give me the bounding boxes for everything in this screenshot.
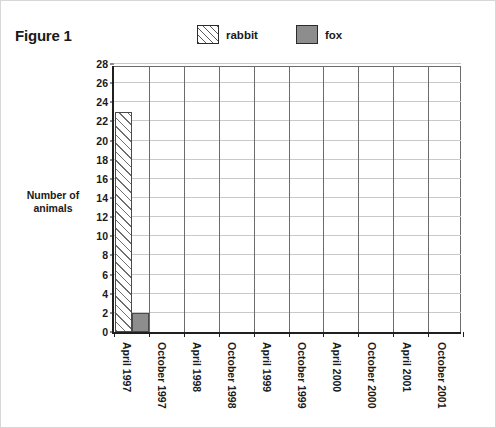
y-tick-label: 28 bbox=[96, 58, 108, 70]
legend-item-fox: fox bbox=[296, 25, 342, 44]
x-tick-mark bbox=[114, 332, 115, 337]
x-tick-mark bbox=[463, 332, 464, 337]
gridline-horizontal bbox=[114, 63, 461, 64]
x-tick-mark bbox=[254, 332, 255, 337]
y-axis-title-line-1: Number of bbox=[11, 189, 95, 202]
x-tick-label: April 1999 bbox=[261, 342, 273, 392]
x-tick-label: October 1997 bbox=[156, 342, 168, 409]
y-tick-mark bbox=[110, 83, 114, 84]
y-tick-mark bbox=[110, 312, 114, 313]
x-tick-mark bbox=[323, 332, 324, 337]
x-tick-label: October 1998 bbox=[226, 342, 238, 409]
x-tick-label: October 1999 bbox=[296, 342, 308, 409]
x-axis-labels: April 1997October 1997April 1998October … bbox=[112, 342, 461, 422]
y-axis-title-line-2: animals bbox=[11, 202, 95, 215]
y-tick-label: 10 bbox=[96, 230, 108, 242]
y-tick-mark bbox=[110, 236, 114, 237]
x-tick-label: April 2001 bbox=[401, 342, 413, 392]
bar-group bbox=[114, 66, 461, 332]
legend-label-fox: fox bbox=[325, 29, 342, 41]
y-tick-label: 22 bbox=[96, 115, 108, 127]
x-tick-label: April 1998 bbox=[191, 342, 203, 392]
y-tick-mark bbox=[110, 64, 114, 65]
legend-label-rabbit: rabbit bbox=[226, 29, 258, 41]
legend-swatch-fox-icon bbox=[296, 25, 318, 44]
x-tick-mark bbox=[184, 332, 185, 337]
y-axis-title: Number of animals bbox=[11, 189, 95, 215]
y-tick-label: 16 bbox=[96, 173, 108, 185]
chart-legend: rabbit fox bbox=[197, 25, 342, 44]
y-tick-label: 26 bbox=[96, 77, 108, 89]
y-tick-mark bbox=[110, 293, 114, 294]
x-tick-mark bbox=[289, 332, 290, 337]
y-tick-mark bbox=[110, 274, 114, 275]
bar-rabbit-0 bbox=[115, 112, 132, 332]
y-tick-label: 0 bbox=[102, 326, 108, 338]
y-tick-mark bbox=[110, 121, 114, 122]
y-tick-label: 14 bbox=[96, 192, 108, 204]
y-tick-mark bbox=[110, 140, 114, 141]
x-tick-mark bbox=[149, 332, 150, 337]
y-tick-mark bbox=[110, 178, 114, 179]
x-tick-mark bbox=[428, 332, 429, 337]
y-tick-label: 8 bbox=[102, 249, 108, 261]
y-tick-mark bbox=[110, 198, 114, 199]
x-tick-mark bbox=[358, 332, 359, 337]
y-tick-mark bbox=[110, 102, 114, 103]
y-tick-label: 24 bbox=[96, 96, 108, 108]
legend-item-rabbit: rabbit bbox=[197, 25, 258, 44]
x-tick-mark bbox=[219, 332, 220, 337]
y-tick-mark bbox=[110, 159, 114, 160]
x-tick-label: October 2000 bbox=[366, 342, 378, 409]
y-tick-mark bbox=[110, 217, 114, 218]
y-tick-label: 6 bbox=[102, 269, 108, 281]
y-tick-label: 2 bbox=[102, 307, 108, 319]
x-tick-label: October 2001 bbox=[436, 342, 448, 409]
y-tick-label: 18 bbox=[96, 154, 108, 166]
bar-fox-0 bbox=[132, 313, 149, 332]
plot-area: 0246810121416182022242628 bbox=[112, 66, 461, 334]
x-tick-label: April 2000 bbox=[331, 342, 343, 392]
y-tick-label: 12 bbox=[96, 211, 108, 223]
y-tick-label: 20 bbox=[96, 135, 108, 147]
figure-title: Figure 1 bbox=[15, 27, 72, 44]
figure-container: Figure 1 rabbit fox Number of animals 02… bbox=[0, 0, 496, 428]
x-tick-label: April 1997 bbox=[121, 342, 133, 392]
x-tick-mark bbox=[393, 332, 394, 337]
y-tick-mark bbox=[110, 255, 114, 256]
legend-swatch-rabbit-icon bbox=[197, 25, 219, 44]
y-tick-label: 4 bbox=[102, 288, 108, 300]
